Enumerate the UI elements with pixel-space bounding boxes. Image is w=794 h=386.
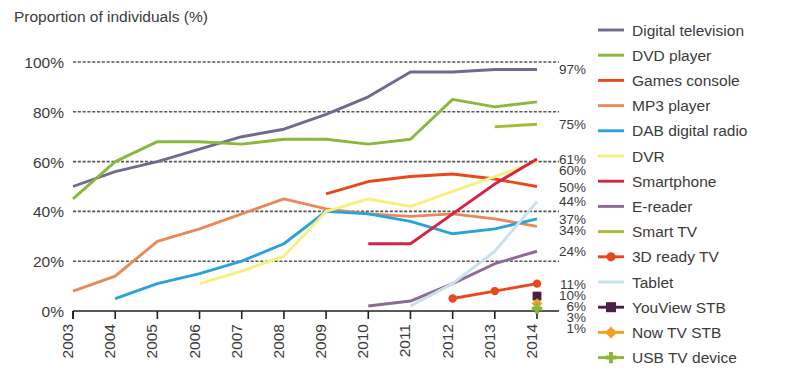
end-value-label: 1%	[566, 321, 586, 336]
y-axis-tick-label: 20%	[33, 253, 64, 270]
legend-label: DVD player	[632, 47, 711, 64]
legend-item[interactable]: Tablet	[598, 274, 674, 291]
legend-label: Smart TV	[632, 223, 698, 240]
series-marker	[533, 279, 541, 287]
end-value-label: 24%	[559, 244, 586, 259]
legend-item[interactable]: USB TV device	[598, 349, 737, 366]
legend-label: 3D ready TV	[632, 248, 719, 265]
x-axis	[73, 311, 559, 319]
x-axis-tick-label: 2011	[396, 324, 413, 357]
legend-marker	[605, 352, 616, 363]
series-marker	[491, 287, 499, 295]
legend-item[interactable]: DAB digital radio	[598, 122, 747, 139]
legend-item[interactable]: 3D ready TV	[598, 248, 719, 265]
legend-label: YouView STB	[632, 299, 726, 316]
end-value-label: 50%	[559, 180, 586, 195]
legend-item[interactable]: YouView STB	[598, 299, 726, 316]
legend-label: Smartphone	[632, 173, 716, 190]
end-value-label: 60%	[559, 163, 586, 178]
y-axis-tick-label: 0%	[42, 303, 65, 320]
legend-item[interactable]: MP3 player	[598, 97, 710, 114]
legend-label: Digital television	[632, 22, 744, 39]
legend-item[interactable]: Digital television	[598, 22, 744, 39]
x-axis-tick-labels: 2003200420052006200720082009201020112012…	[59, 324, 540, 359]
y-axis-tick-label: 60%	[33, 154, 64, 171]
x-axis-tick-label: 2003	[59, 324, 76, 358]
x-axis-tick-label: 2012	[439, 324, 456, 358]
legend-item[interactable]: DVR	[598, 148, 665, 165]
x-axis-tick-label: 2005	[143, 324, 160, 358]
x-axis-tick-label: 2010	[354, 324, 371, 359]
y-axis-tick-label: 80%	[33, 104, 64, 121]
gridlines	[73, 62, 559, 261]
legend-item[interactable]: Now TV STB	[598, 324, 721, 341]
legend-item[interactable]: Games console	[598, 72, 740, 89]
x-axis-tick-label: 2009	[312, 324, 329, 358]
legend-label: Now TV STB	[632, 324, 721, 341]
x-axis-tick-label: 2004	[101, 324, 118, 359]
legend-label: Games console	[632, 72, 740, 89]
end-value-label: 97%	[559, 62, 586, 77]
legend-label: USB TV device	[632, 349, 737, 366]
series-lines	[73, 69, 542, 313]
series-marker	[448, 294, 456, 302]
series-line	[115, 211, 537, 298]
legend-item[interactable]: DVD player	[598, 47, 711, 64]
x-axis-tick-label: 2008	[270, 324, 287, 358]
end-value-label: 44%	[559, 194, 586, 209]
series-line	[73, 99, 537, 199]
legend-label: DAB digital radio	[632, 122, 747, 139]
end-value-label: 34%	[559, 223, 586, 238]
x-axis-tick-label: 2013	[481, 324, 498, 358]
legend-marker	[606, 252, 615, 261]
legend-item[interactable]: Smart TV	[598, 223, 698, 240]
end-value-label: 75%	[559, 117, 586, 132]
series-line	[495, 124, 537, 126]
legend-marker	[605, 326, 617, 338]
legend: Digital televisionDVD playerGames consol…	[598, 22, 747, 367]
legend-item[interactable]: Smartphone	[598, 173, 716, 190]
line-chart: Proportion of individuals (%) 0%20%40%60…	[0, 0, 794, 386]
y-axis-tick-labels: 0%20%40%60%80%100%	[24, 54, 64, 320]
legend-label: Tablet	[632, 274, 674, 291]
chart-title: Proportion of individuals (%)	[14, 8, 208, 25]
end-value-labels: 97%75%61%60%50%44%37%34%24%11%10%6%3%1%	[559, 62, 586, 335]
x-axis-tick-label: 2014	[523, 324, 540, 359]
x-axis-tick-label: 2007	[228, 324, 245, 358]
legend-label: DVR	[632, 148, 665, 165]
x-axis-tick-label: 2006	[186, 324, 203, 358]
y-axis-tick-label: 40%	[33, 203, 64, 220]
legend-item[interactable]: E-reader	[598, 198, 692, 215]
legend-marker	[606, 302, 616, 312]
y-axis-tick-label: 100%	[24, 54, 64, 71]
legend-label: E-reader	[632, 198, 692, 215]
series-line	[73, 69, 537, 186]
series-line	[200, 162, 537, 284]
legend-label: MP3 player	[632, 97, 710, 114]
